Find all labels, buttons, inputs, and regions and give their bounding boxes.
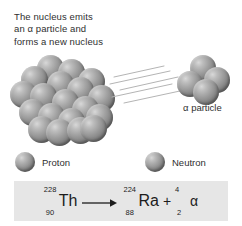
reaction-arrow-icon	[82, 195, 118, 207]
element-symbol-reactant: Th	[59, 192, 78, 209]
mass-number-reactant: 228	[44, 186, 57, 194]
legend-label-neutron: Neutron	[172, 157, 206, 168]
mass-number-product: 224	[123, 186, 136, 194]
motion-lines	[108, 60, 188, 106]
proton-sphere-icon	[15, 152, 35, 172]
element-symbol-alpha: α	[190, 193, 198, 209]
atomic-number-product: 88	[125, 209, 133, 217]
nuclide-alpha: 4 2 α	[175, 192, 198, 210]
alpha-particle-label: α particle	[183, 102, 222, 113]
figure-caption: The nucleus emits an α particle and form…	[14, 11, 164, 48]
decay-equation-box: 228 90 Th 224 88 Ra + 4 2 α	[14, 181, 228, 221]
legend-label-proton: Proton	[42, 157, 70, 168]
nuclide-reactant: 228 90 Th	[44, 192, 78, 210]
atomic-number-alpha: 2	[177, 209, 181, 217]
neutron-sphere-icon	[145, 152, 165, 172]
nucleon-sphere	[80, 115, 107, 142]
legend-item-neutron: Neutron	[145, 152, 206, 172]
alpha-decay-figure: The nucleus emits an α particle and form…	[0, 0, 242, 226]
plus-sign: +	[163, 193, 171, 209]
decay-equation: 228 90 Th 224 88 Ra + 4 2 α	[14, 181, 228, 221]
parent-nucleus-cluster	[10, 55, 118, 143]
legend-item-proton: Proton	[15, 152, 70, 172]
nuclide-product: 224 88 Ra	[123, 192, 158, 210]
mass-number-alpha: 4	[175, 186, 179, 194]
atomic-number-reactant: 90	[46, 209, 54, 217]
element-symbol-product: Ra	[138, 192, 158, 209]
alpha-particle-cluster	[177, 55, 233, 105]
